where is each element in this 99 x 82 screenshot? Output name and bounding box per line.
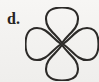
right-petal-path [63,28,99,60]
top-petal-path [46,8,78,44]
bottom-petal-path [46,45,78,81]
left-petal-path [26,28,62,60]
four-petal-flower-figure [25,7,99,81]
part-label: d. [7,11,20,27]
figure-container: d. [0,0,99,82]
